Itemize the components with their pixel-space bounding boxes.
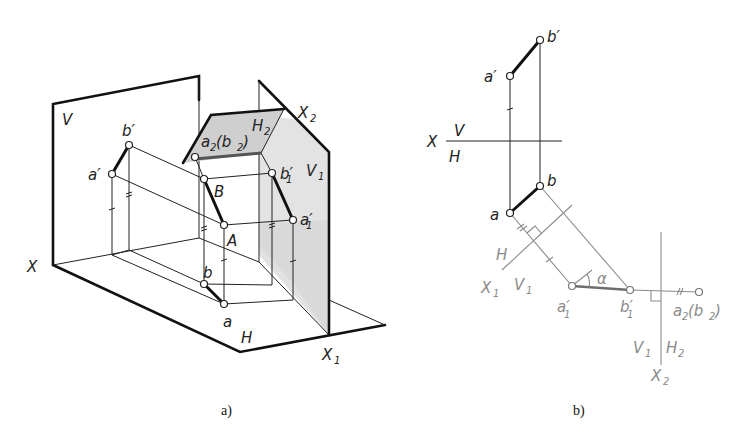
svg-text:1: 1 — [286, 174, 292, 185]
svg-text:2: 2 — [264, 126, 270, 137]
point-a1-prime — [290, 217, 297, 224]
svg-text:): ) — [714, 302, 721, 320]
svg-text:1: 1 — [306, 220, 312, 231]
label-b-prime-b: b′ — [547, 28, 561, 46]
svg-text:V: V — [306, 162, 318, 180]
caption-a: a) — [221, 403, 232, 419]
point-b-prime-b — [537, 37, 544, 44]
label-V1-b: V 1 — [514, 276, 532, 296]
label-a1-prime-b: a′ 1 — [557, 298, 570, 320]
caption-b: b) — [573, 403, 585, 419]
v-plane-outline — [53, 76, 199, 265]
label-b1-prime: b′ 1 — [280, 165, 294, 185]
alpha-angle-arc — [587, 274, 590, 287]
label-X1-b: X 1 — [480, 279, 499, 299]
label-A: A — [226, 232, 237, 250]
right-angle-mark-x2 — [651, 291, 661, 301]
panel-a-pictorial-view: V X b′ a′ B A b a H X 1 X 2 V 1 H 2 a 2 … — [26, 76, 385, 419]
svg-text:V: V — [514, 276, 526, 294]
label-b: b — [203, 264, 213, 282]
label-b-prime: b′ — [122, 122, 136, 140]
point-a — [221, 301, 228, 308]
segment-ab — [204, 284, 224, 304]
label-a-prime: a′ — [88, 166, 101, 184]
projector-b-to-b1 — [540, 186, 630, 290]
svg-text:1: 1 — [526, 285, 532, 296]
point-b1-prime — [269, 170, 276, 177]
label-B: B — [214, 183, 224, 201]
label-axis-X: X — [26, 258, 38, 276]
point-b-b — [537, 183, 544, 190]
svg-text:2: 2 — [678, 348, 684, 359]
svg-text:X: X — [321, 346, 333, 364]
svg-text:a: a — [201, 133, 210, 151]
h-plane-outline — [53, 265, 385, 352]
svg-text:1: 1 — [334, 355, 340, 366]
svg-text:1: 1 — [627, 309, 633, 320]
svg-text:(b: (b — [688, 302, 703, 320]
segment-a-prime-b-prime-b — [510, 40, 540, 76]
label-a1-prime: a′ 1 — [300, 211, 313, 231]
svg-text:X: X — [297, 104, 309, 122]
point-b1-prime-b — [627, 287, 634, 294]
svg-text:1: 1 — [493, 288, 499, 299]
svg-text:2: 2 — [310, 113, 316, 124]
label-X2: X 2 — [297, 104, 316, 124]
svg-text:1: 1 — [318, 171, 324, 182]
label-V-b: V — [454, 122, 466, 140]
label-H2-b: H 2 — [666, 339, 684, 359]
point-a-prime-b — [507, 73, 514, 80]
label-b1-prime-b: b′ 1 — [620, 298, 634, 320]
segment-a-prime-b-prime — [112, 145, 129, 174]
point-B — [201, 176, 208, 183]
label-H-b: H — [449, 148, 460, 166]
label-plane-V: V — [62, 111, 74, 129]
point-b-prime — [126, 142, 133, 149]
segment-ab-b — [510, 186, 540, 213]
label-a: a — [223, 313, 232, 331]
point-a1-prime-b — [569, 283, 576, 290]
svg-text:1: 1 — [564, 309, 570, 320]
svg-text:V: V — [633, 339, 645, 357]
svg-text:X: X — [480, 279, 492, 297]
point-a2-b2 — [192, 154, 199, 161]
label-alpha: α — [597, 270, 607, 288]
point-a-prime — [109, 171, 116, 178]
projector-b1-to-a2 — [630, 290, 699, 292]
panel-b-orthographic-view: a′ b′ b a X V H H X 1 V 1 α a′ 1 b′ 1 a … — [426, 28, 721, 419]
svg-text:1: 1 — [645, 348, 651, 359]
point-A — [221, 222, 228, 229]
svg-text:H: H — [666, 339, 677, 357]
svg-text:H: H — [252, 117, 263, 135]
point-a2-b2-b — [696, 289, 703, 296]
label-b-b: b — [547, 172, 557, 190]
label-a-b: a — [490, 206, 499, 224]
label-X-b: X — [426, 133, 438, 151]
svg-text:a: a — [673, 302, 682, 320]
svg-text:2: 2 — [663, 376, 669, 387]
v1-plane-shade — [259, 220, 329, 335]
h-plane-right-edge — [329, 300, 385, 325]
label-a-prime-b: a′ — [484, 68, 497, 86]
label-V1-right: V 1 — [633, 339, 651, 359]
svg-text:): ) — [242, 133, 249, 151]
point-a-b — [507, 210, 514, 217]
label-a2-b2-b: a 2 (b 2 ) — [673, 302, 721, 322]
label-plane-H: H — [241, 329, 252, 347]
svg-text:X: X — [650, 367, 662, 385]
label-H-aux: H — [496, 246, 507, 264]
svg-text:(b: (b — [216, 133, 231, 151]
label-X1: X 1 — [321, 346, 340, 366]
right-angle-mark-x1 — [527, 226, 542, 234]
label-X2-b: X 2 — [650, 367, 669, 387]
